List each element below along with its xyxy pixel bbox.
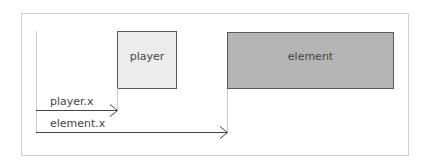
player-box-label: player — [117, 50, 177, 63]
element-x-label: element.x — [50, 117, 105, 130]
position-diagram — [0, 0, 430, 167]
player-x-label: player.x — [50, 95, 94, 108]
element-box-label: element — [227, 50, 394, 63]
